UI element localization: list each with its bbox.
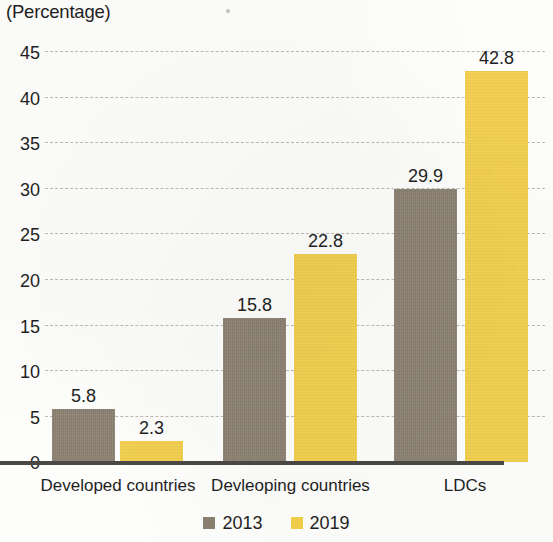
bar-value-label: 2.3: [120, 419, 183, 437]
bar-ldcs-2019[interactable]: [465, 71, 528, 462]
bar-value-label: 22.8: [294, 232, 357, 250]
chart-container: (Percentage) 45 40 35 30 25 20 15 10 5 0…: [0, 0, 553, 542]
bar-value-label: 15.8: [223, 296, 286, 314]
bar-value-label: 42.8: [462, 49, 531, 67]
x-axis-baseline: [0, 461, 504, 465]
bar-developed-countries-2013[interactable]: [52, 409, 115, 462]
bar-developing-countries-2013[interactable]: [223, 318, 286, 462]
scan-artifact-speck: [226, 9, 230, 13]
bar-value-label: 29.9: [394, 167, 457, 185]
bar-developing-countries-2019[interactable]: [294, 254, 357, 462]
bar-value-label: 5.8: [52, 387, 115, 405]
bar-ldcs-2013[interactable]: [394, 189, 457, 462]
bar-developed-countries-2019[interactable]: [120, 441, 183, 462]
